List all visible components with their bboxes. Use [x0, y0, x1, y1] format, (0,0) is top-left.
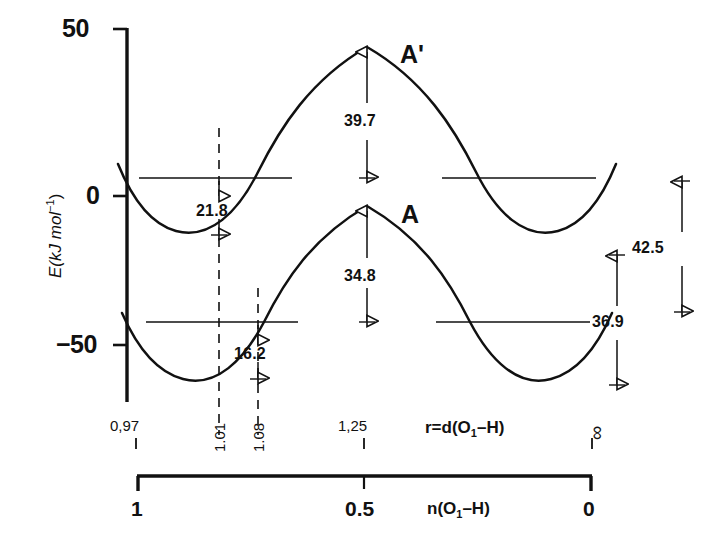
n-axis-caption: n(O1–H)	[427, 500, 490, 520]
callout-barrier-lower: 34.8	[344, 268, 376, 284]
y-tick-0: 0	[86, 183, 99, 208]
y-axis-title: E(kJ mol−1)	[45, 194, 64, 278]
r-axis-caption-head: r=d(O	[425, 418, 471, 437]
callout-well-lower: 16.2	[234, 346, 266, 362]
y-axis-symbol: E(kJ mol	[46, 212, 65, 278]
n-tick-05: 0.5	[345, 498, 374, 519]
energy-profile-figure: 50 0 −50 E(kJ mol−1) A' A 21.8 16.2 39.7…	[0, 0, 721, 534]
r-axis-ticks	[136, 438, 592, 449]
y-tick-50: 50	[62, 16, 89, 41]
callout-barrier-upper: 39.7	[344, 113, 376, 129]
r-tick-108: 1.08	[251, 423, 266, 452]
bond-order-axis	[137, 476, 592, 491]
n-axis-caption-tail: –H)	[462, 499, 489, 518]
r-tick-infinity: ∞	[586, 426, 606, 440]
y-tick-minus-50: −50	[56, 332, 97, 357]
curve-tag-a: A	[401, 202, 419, 227]
energy-axis	[113, 28, 127, 402]
r-tick-097: 0,97	[110, 418, 139, 433]
y-axis-exponent: −1	[44, 199, 56, 212]
projection-lines	[219, 128, 258, 435]
n-tick-1: 1	[131, 498, 143, 519]
callout-separation-inner: 36.9	[592, 314, 624, 330]
r-axis-caption: r=d(O1–H)	[425, 419, 504, 439]
curve-tag-a-prime: A'	[400, 42, 424, 67]
r-tick-101: 1.01	[212, 423, 227, 452]
callout-separation-outer: 42.5	[632, 240, 664, 256]
y-axis-title-close: )	[46, 194, 65, 200]
r-axis-caption-tail: –H)	[477, 418, 504, 437]
n-tick-0: 0	[583, 498, 595, 519]
measure-arrow-42-5	[674, 181, 690, 312]
callout-well-upper: 21.8	[196, 203, 228, 219]
r-tick-125: 1,25	[338, 418, 367, 433]
n-axis-caption-head: n(O	[427, 499, 456, 518]
